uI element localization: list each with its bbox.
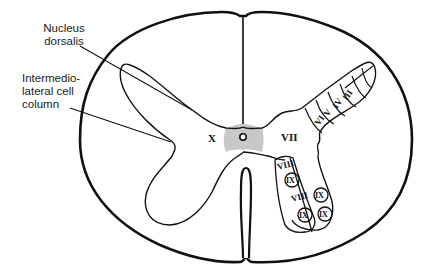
nucleus-dorsalis-label: Nucleus dorsalis	[38, 22, 90, 48]
lamina-ix-label-2: IX	[315, 191, 324, 200]
intermediolateral-leader	[70, 108, 171, 142]
ventral-median-fissure	[241, 168, 251, 258]
intermediolateral-line-1: Intermedio-	[22, 72, 102, 85]
lamina-vii-label: VII	[281, 131, 298, 143]
lamina-ix-label-3: IX	[299, 211, 308, 220]
lamina-ix-label-4: IX	[319, 210, 328, 219]
lamina-ix-label-1: IX	[286, 176, 295, 185]
lamina-x-label: X	[208, 132, 216, 144]
lamina-viii-upper-label: VIII	[276, 158, 295, 172]
right-ventral-inner-edge	[243, 152, 285, 160]
lamina-v-label: V	[321, 107, 333, 118]
intermediolateral-line-2: lateral cell	[22, 85, 102, 98]
intermediolateral-label: Intermedio- lateral cell column	[22, 72, 102, 111]
central-canal	[240, 134, 246, 140]
intermediolateral-line-3: column	[22, 98, 102, 111]
nucleus-dorsalis-line-1: Nucleus	[38, 22, 90, 35]
nucleus-dorsalis-line-2: dorsalis	[38, 35, 90, 48]
lamina-viii-lower-label: VIII	[290, 190, 309, 204]
